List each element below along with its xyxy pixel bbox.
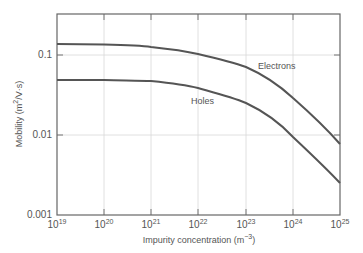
ytick-0.1: 0.1 xyxy=(38,49,52,60)
svg-text:1024: 1024 xyxy=(284,218,303,230)
ytick-0.01: 0.01 xyxy=(33,129,53,140)
svg-text:1020: 1020 xyxy=(95,218,114,230)
electrons-label: Electrons xyxy=(258,61,296,71)
mobility-chart: Electrons Holes 0.1 0.01 0.001 1019 1020… xyxy=(0,0,363,253)
xtick-labels: 1019 1020 1021 1022 1023 1024 1025 xyxy=(48,218,350,230)
svg-text:1022: 1022 xyxy=(189,218,208,230)
x-axis-title: Impurity concentration (m−3) xyxy=(143,233,256,245)
svg-text:1025: 1025 xyxy=(331,218,350,230)
electrons-curve xyxy=(57,44,340,144)
y-axis-title: Mobility (m2/V·s) xyxy=(12,81,24,147)
svg-text:1019: 1019 xyxy=(48,218,67,230)
svg-text:1021: 1021 xyxy=(142,218,161,230)
svg-text:1023: 1023 xyxy=(237,218,256,230)
holes-label: Holes xyxy=(191,96,215,106)
